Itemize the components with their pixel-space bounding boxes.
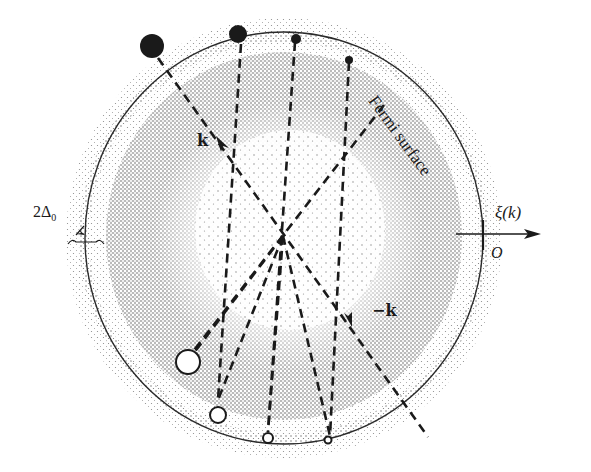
hole-state-1 <box>176 350 200 374</box>
origin-label: O <box>491 244 503 262</box>
gap-label: 2Δ0 <box>33 203 56 223</box>
gap-label-subscript: 0 <box>51 212 56 223</box>
hole-state-2 <box>210 407 226 423</box>
electron-state-1 <box>140 34 164 58</box>
k-vector-label: k <box>197 131 208 150</box>
gap-label-main: 2Δ <box>33 203 51 220</box>
electron-state-3 <box>291 34 301 44</box>
cooper-pair-diagram: Fermi surface ξ(k) O k −k 2Δ0 <box>0 0 591 472</box>
fermi-sphere-diagram <box>0 0 591 472</box>
xi-axis-label: ξ(k) <box>495 203 521 223</box>
electron-state-2 <box>229 25 247 43</box>
hole-state-4 <box>325 437 332 444</box>
minus-k-vector-label: −k <box>372 301 397 320</box>
electron-state-4 <box>345 56 353 64</box>
hole-state-3 <box>263 433 273 443</box>
